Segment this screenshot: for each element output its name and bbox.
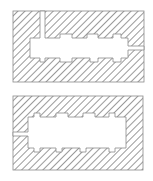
lower-cavity <box>13 113 126 152</box>
upper-section <box>13 11 144 82</box>
diagram-canvas <box>0 0 153 181</box>
lower-section <box>13 96 143 170</box>
